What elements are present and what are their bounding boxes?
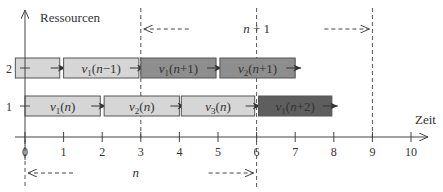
period-label: n [133, 165, 140, 180]
x-tick-label: 3 [138, 145, 144, 159]
task-bar: v2(n+1) [220, 58, 301, 78]
task-label: v3(n) [205, 99, 230, 116]
task-label: v2(n) [129, 99, 154, 116]
task-bar: v1(n−1) [64, 58, 145, 78]
y-axis-label: Ressourcen [40, 10, 100, 25]
period-label: n + 1 [243, 21, 270, 36]
x-tick-label: 5 [215, 145, 221, 159]
period-n: n [28, 165, 254, 180]
x-tick-label: 9 [369, 145, 375, 159]
task-bar: v1(n) [25, 96, 106, 116]
period-n+1: n + 1 [144, 21, 370, 36]
y-tick-label: 2 [6, 62, 12, 76]
x-tick-label: 0 [22, 145, 28, 159]
x-tick-label: 4 [176, 145, 182, 159]
task-bar: v2(n) [104, 96, 185, 116]
x-axis-label: Zeit [415, 112, 436, 127]
y-tick-label: 1 [6, 100, 12, 114]
x-tick-label: 8 [331, 145, 337, 159]
task-label: v1(n) [50, 99, 75, 116]
task-bar: v1(n+2) [259, 96, 338, 116]
task-bar: v3(n) [181, 96, 260, 116]
task-bar: v1(n+1) [141, 58, 222, 78]
x-tick-label: 2 [99, 145, 105, 159]
schedule-diagram: v1(n−1)v1(n+1)v2(n+1)v1(n)v2(n)v3(n)v1(n… [0, 0, 443, 192]
task-bars: v1(n−1)v1(n+1)v2(n+1)v1(n)v2(n)v3(n)v1(n… [15, 58, 338, 116]
x-tick-label: 10 [405, 145, 417, 159]
axes: RessourcenZeit01234567891012 [6, 10, 436, 160]
x-tick-label: 7 [292, 145, 298, 159]
x-tick-label: 1 [61, 145, 67, 159]
x-tick-label: 6 [254, 145, 260, 159]
